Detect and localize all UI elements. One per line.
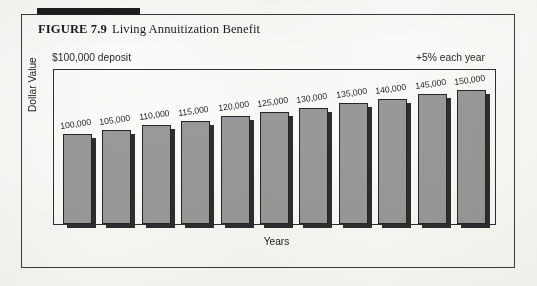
x-axis-title-text: Years [264, 236, 290, 247]
bar-body [260, 112, 289, 224]
bar[interactable] [142, 125, 171, 224]
bar[interactable] [221, 116, 250, 224]
plot-frame: 100,000105,000110,000115,000120,000125,0… [53, 69, 496, 225]
bar-slot [142, 70, 171, 224]
bar[interactable] [378, 99, 407, 224]
bar-slot [221, 70, 250, 224]
bar-body [339, 103, 368, 224]
bar-slot [102, 70, 131, 224]
bar-body [221, 116, 250, 224]
bar-body [299, 108, 328, 224]
bar-body [418, 94, 447, 224]
x-axis-title: Years [0, 236, 537, 247]
bar[interactable] [260, 112, 289, 224]
bar-body [102, 130, 131, 224]
bar-slot [418, 70, 447, 224]
bar[interactable] [339, 103, 368, 224]
bar-body [181, 121, 210, 224]
bar-body [63, 134, 92, 224]
figure-top-rule [37, 8, 140, 15]
bar[interactable] [102, 130, 131, 224]
bar-slot [181, 70, 210, 224]
deposit-annotation: $100,000 deposit [52, 52, 131, 63]
bars-layer: 100,000105,000110,000115,000120,000125,0… [54, 70, 495, 224]
bar[interactable] [457, 90, 486, 224]
growth-rate-annotation: +5% each year [416, 52, 485, 63]
y-axis-title: Dollar Value [27, 57, 38, 112]
bar-body [378, 99, 407, 224]
bar-slot [457, 70, 486, 224]
bar[interactable] [299, 108, 328, 224]
bar[interactable] [63, 134, 92, 224]
bar-body [142, 125, 171, 224]
bar-slot [63, 70, 92, 224]
bar[interactable] [418, 94, 447, 224]
figure-title: Living Annuitization Benefit [112, 22, 260, 36]
bar-slot [260, 70, 289, 224]
bar-body [457, 90, 486, 224]
bar[interactable] [181, 121, 210, 224]
figure-number: FIGURE 7.9 [38, 22, 107, 36]
figure-caption: FIGURE 7.9Living Annuitization Benefit [38, 22, 260, 37]
